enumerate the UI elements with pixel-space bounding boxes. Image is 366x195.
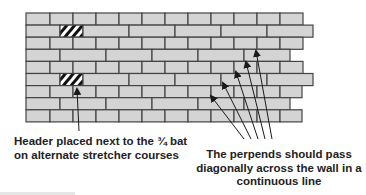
brick [119, 86, 142, 98]
brick [280, 37, 303, 49]
brick [165, 86, 188, 98]
brick [26, 110, 50, 122]
brick [280, 86, 302, 98]
brick [96, 86, 119, 98]
brick [234, 37, 257, 49]
brick [129, 74, 175, 86]
brick [73, 86, 96, 98]
header-annotation-line2: on alternate stretcher courses [14, 149, 194, 163]
header-annotation: Header placed next to the ¾ bat on alter… [14, 135, 194, 162]
header-brick [60, 25, 83, 37]
brick [26, 61, 50, 73]
brick [221, 25, 267, 37]
brick [142, 86, 165, 98]
brick [211, 61, 234, 73]
brick [257, 37, 280, 49]
brick [26, 74, 60, 86]
brick [129, 25, 175, 37]
brick [142, 13, 165, 25]
brick [198, 98, 244, 110]
brick [26, 25, 60, 37]
brick [50, 37, 73, 49]
brick [96, 13, 119, 25]
brick [26, 37, 50, 49]
perpends-annotation-line3: continuous line [196, 175, 362, 189]
brick [267, 25, 313, 37]
brick [73, 61, 96, 73]
brick [198, 49, 244, 61]
perpends-annotation: The perpends should pass diagonally acro… [196, 148, 362, 189]
brick [73, 13, 96, 25]
brick [142, 61, 165, 73]
brick [142, 37, 165, 49]
brick [119, 37, 142, 49]
brick [26, 49, 60, 61]
perpends-annotation-line2: diagonally across the wall in a [196, 162, 362, 176]
brick [96, 110, 119, 122]
brick [106, 98, 152, 110]
brick [73, 110, 96, 122]
brick [165, 13, 188, 25]
brick [175, 74, 221, 86]
brick [175, 25, 221, 37]
brick [50, 13, 73, 25]
brick [267, 74, 313, 86]
brick [152, 49, 198, 61]
brick [26, 98, 60, 110]
brick [211, 37, 234, 49]
brick [188, 61, 211, 73]
brick [106, 49, 152, 61]
brick [280, 110, 302, 122]
brick [96, 37, 119, 49]
brick [142, 110, 165, 122]
brick [244, 98, 290, 110]
brick [83, 74, 129, 86]
brick [26, 13, 50, 25]
header-brick [60, 74, 83, 86]
brick [257, 61, 280, 73]
brick [119, 110, 142, 122]
brick [188, 13, 211, 25]
brick [188, 110, 211, 122]
brick [119, 13, 142, 25]
brick [26, 86, 50, 98]
brick [165, 37, 188, 49]
brick [165, 110, 188, 122]
brick [50, 61, 73, 73]
brick [96, 61, 119, 73]
brick [234, 13, 257, 25]
brick [244, 49, 290, 61]
header-annotation-line1: Header placed next to the ¾ bat [14, 135, 194, 149]
brick [152, 98, 198, 110]
brick [119, 61, 142, 73]
brick [188, 37, 211, 49]
brick [188, 86, 211, 98]
brick [83, 25, 129, 37]
bottom-edge-artifact [0, 192, 75, 195]
brick [257, 86, 280, 98]
brick [60, 98, 106, 110]
brick [234, 61, 257, 73]
brick [280, 61, 303, 73]
brick [280, 13, 303, 25]
brick [211, 13, 234, 25]
brick [60, 49, 106, 61]
brick-wall [26, 13, 313, 122]
brick [165, 61, 188, 73]
perpends-annotation-line1: The perpends should pass [196, 148, 362, 162]
brick [211, 86, 234, 98]
brick [257, 13, 280, 25]
brick [73, 37, 96, 49]
brick [50, 110, 73, 122]
brick [50, 86, 73, 98]
